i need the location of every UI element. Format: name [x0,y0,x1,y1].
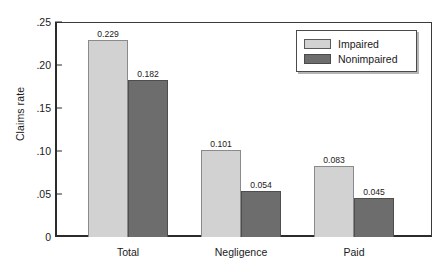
bar-paid-impaired: 0.083 [314,166,354,237]
legend-item-nonimpaired: Nonimpaired [304,51,409,66]
bar-total-nonimpaired: 0.182 [128,80,168,237]
bar-value-label: 0.182 [137,69,159,79]
bar-value-label: 0.045 [363,187,385,197]
legend-swatch-icon [304,54,331,64]
bar-total-impaired: 0.229 [88,40,128,237]
legend-item-impaired: Impaired [304,36,409,51]
bar-chart: Claims rate .25.20.15.10.050 0.2290.1820… [0,0,447,270]
y-axis-tick-label: .10 [17,145,51,157]
chart-legend: ImpairedNonimpaired [296,30,417,72]
bar-paid-nonimpaired: 0.045 [354,198,394,237]
y-axis-tick-label: .20 [17,59,51,71]
x-axis-label-negligence: Negligence [215,246,268,258]
y-axis-tick-label: .25 [17,16,51,28]
y-axis-tick-label: .05 [17,188,51,200]
legend-label: Nonimpaired [338,53,398,65]
y-axis-tick-label: 0 [17,231,51,243]
bar-negligence-impaired: 0.101 [201,150,241,237]
legend-swatch-icon [304,39,331,49]
x-axis-label-total: Total [117,246,139,258]
bar-value-label: 0.101 [210,139,232,149]
bar-value-label: 0.229 [97,29,119,39]
bar-value-label: 0.083 [323,155,345,165]
bar-negligence-nonimpaired: 0.054 [241,191,281,237]
y-axis-tick-label: .15 [17,102,51,114]
legend-label: Impaired [338,38,379,50]
x-axis-label-paid: Paid [343,246,364,258]
bar-value-label: 0.054 [250,180,272,190]
